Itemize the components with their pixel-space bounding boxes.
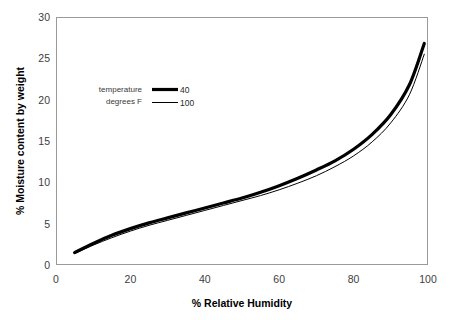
y-tick-label: 15: [38, 135, 50, 147]
legend-title-line-1: temperature: [99, 85, 143, 94]
y-tick-label: 20: [38, 94, 50, 106]
x-tick-label: 100: [419, 273, 437, 285]
x-axis-title: % Relative Humidity: [192, 297, 293, 309]
legend-label-40: 40: [180, 85, 190, 95]
chart-container: 30 25 20 15 10 5 0 0 20 40 60 80 100 % R…: [0, 0, 459, 320]
legend-label-100: 100: [180, 98, 194, 108]
chart-canvas: 30 25 20 15 10 5 0 0 20 40 60 80 100 % R…: [0, 0, 459, 320]
y-tick-label: 0: [44, 259, 50, 271]
legend-title-line-2: degrees F: [106, 97, 142, 106]
y-tick-label: 25: [38, 52, 50, 64]
y-tick-label: 30: [38, 11, 50, 23]
x-tick-label: 40: [199, 273, 211, 285]
y-tick-label: 5: [44, 218, 50, 230]
y-axis-title: % Moisture content by weight: [14, 66, 26, 215]
x-tick-label: 20: [125, 273, 137, 285]
x-tick-label: 80: [348, 273, 360, 285]
y-axis-tick-labels: 30 25 20 15 10 5 0: [38, 11, 50, 271]
plot-area-background: [56, 17, 428, 265]
y-tick-label: 10: [38, 176, 50, 188]
x-tick-label: 60: [273, 273, 285, 285]
x-axis-tick-labels: 0 20 40 60 80 100: [53, 273, 437, 285]
x-tick-label: 0: [53, 273, 59, 285]
